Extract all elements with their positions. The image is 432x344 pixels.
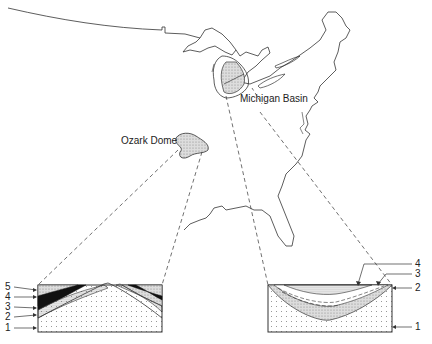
- michigan-basin-shape: [221, 62, 244, 94]
- border-line: [8, 8, 200, 38]
- dome-arrows: [14, 287, 36, 328]
- ozark-dome-label: Ozark Dome: [121, 136, 177, 146]
- basin-cross-section: [268, 285, 392, 332]
- coastline-northeast: [183, 28, 236, 55]
- dome-layer-2: 2: [5, 312, 11, 322]
- coastline-east: [184, 110, 310, 246]
- map-diagram: [0, 0, 432, 344]
- michigan-basin-label: Michigan Basin: [240, 94, 308, 104]
- dome-cross-section: [38, 283, 162, 332]
- dome-layer-1: 1: [5, 323, 11, 333]
- basin-layer-2: 2: [415, 283, 421, 293]
- basin-layer-1: 1: [415, 322, 421, 332]
- basin-layer-3: 3: [415, 269, 421, 279]
- ozark-dome-shape: [176, 133, 208, 158]
